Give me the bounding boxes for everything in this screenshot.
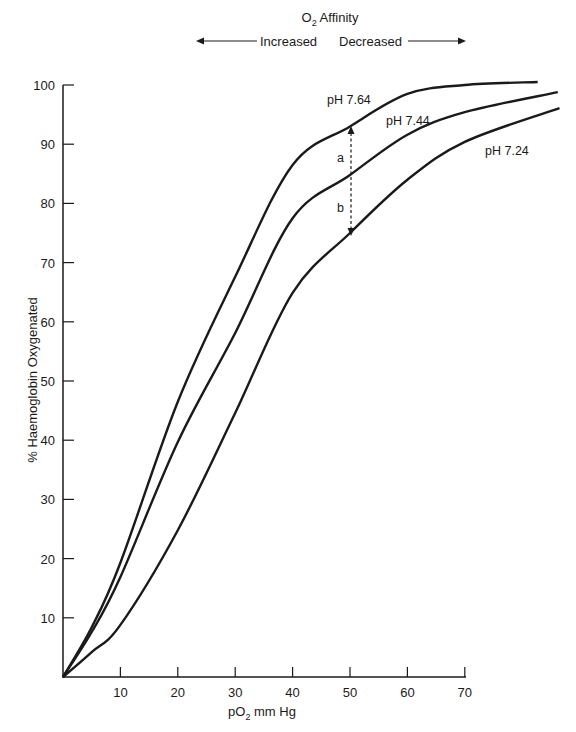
label-ph-7-64: pH 7.64 [327,93,371,107]
curve-ph-7-44 [63,92,558,677]
x-tick-label: 20 [171,685,185,700]
y-tick-label: 40 [41,433,55,448]
label-ph-7-24: pH 7.24 [485,144,529,158]
y-tick-label: 20 [41,552,55,567]
x-ticks: 10203040506070 [113,667,472,700]
decreased-label: Decreased [339,34,402,49]
y-tick-label: 90 [41,137,55,152]
y-tick-label: 50 [41,374,55,389]
affinity-title: O2 Affinity [302,10,359,28]
x-tick-label: 70 [458,685,472,700]
oxygen-dissociation-chart: O2 Affinity Increased Decreased 10203040… [0,0,576,732]
x-tick-label: 40 [285,685,299,700]
y-tick-label: 100 [33,78,55,93]
y-axis-title: % Haemoglobin Oxygenated [25,297,40,463]
x-tick-label: 50 [343,685,357,700]
curves [63,82,560,677]
label-ph-7-44: pH 7.44 [386,114,430,128]
y-tick-label: 60 [41,315,55,330]
increased-label: Increased [260,34,317,49]
right-arrow-icon [458,38,466,45]
curve-ph-7-64 [63,82,538,677]
curve-ph-7-24 [63,108,560,677]
y-tick-label: 70 [41,256,55,271]
x-tick-label: 30 [228,685,242,700]
annotation-a: a [337,151,344,165]
y-tick-label: 30 [41,492,55,507]
x-tick-label: 10 [113,685,127,700]
y-tick-label: 80 [41,196,55,211]
annotation-b: b [337,201,344,215]
x-tick-label: 60 [400,685,414,700]
left-arrow-icon [196,38,204,45]
axes: 102030405060708090100 10203040506070 [33,78,472,700]
affinity-header: O2 Affinity Increased Decreased [196,10,466,49]
x-axis-title: pO2 mm Hg [228,704,296,722]
y-tick-label: 10 [41,611,55,626]
